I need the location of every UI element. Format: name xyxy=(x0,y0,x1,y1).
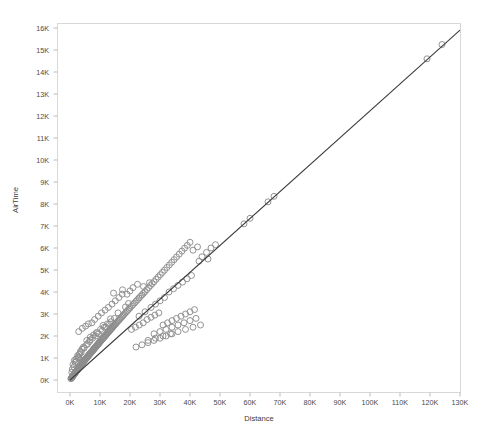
x-tick-label: 80K xyxy=(304,398,317,407)
y-tick-label: 1K xyxy=(40,354,49,363)
data-point xyxy=(115,310,121,316)
data-point xyxy=(95,313,101,319)
y-tick-label: 0K xyxy=(40,376,49,385)
y-tick-label: 8K xyxy=(40,200,49,209)
data-point xyxy=(169,324,175,330)
chart-canvas: 0K1K2K3K4K5K6K7K8K9K10K11K12K13K14K15K16… xyxy=(0,0,478,439)
y-tick-label: 13K xyxy=(36,90,49,99)
trend-line xyxy=(70,30,460,380)
x-tick-label: 90K xyxy=(334,398,347,407)
data-point xyxy=(187,318,193,324)
y-tick-label: 11K xyxy=(37,134,49,143)
scatter-plot-chart: 0K1K2K3K4K5K6K7K8K9K10K11K12K13K14K15K16… xyxy=(0,0,478,439)
x-tick-label: 100K xyxy=(362,398,379,407)
x-tick-label: 50K xyxy=(214,398,227,407)
y-tick-label: 7K xyxy=(40,222,49,231)
data-point xyxy=(135,281,141,287)
y-tick-label: 3K xyxy=(40,310,49,319)
data-point xyxy=(133,344,139,350)
data-point xyxy=(157,329,163,335)
x-axis-title: Distance xyxy=(244,414,274,423)
y-tick-label: 6K xyxy=(40,244,49,253)
y-tick-label: 12K xyxy=(36,112,49,121)
y-tick-label: 10K xyxy=(36,156,49,165)
x-axis-ticks: 0K10K20K30K40K50K60K70K80K90K100K110K120… xyxy=(66,393,469,408)
data-point xyxy=(112,298,118,304)
data-point xyxy=(181,320,187,326)
x-tick-label: 0K xyxy=(66,398,75,407)
x-tick-label: 70K xyxy=(274,398,287,407)
y-tick-label: 14K xyxy=(36,68,49,77)
y-tick-label: 9K xyxy=(40,178,49,187)
y-tick-label: 2K xyxy=(40,332,49,341)
regression-line xyxy=(70,30,460,380)
data-point xyxy=(139,342,145,348)
data-point xyxy=(198,322,204,328)
x-tick-label: 120K xyxy=(422,398,439,407)
data-point xyxy=(109,301,115,307)
data-point xyxy=(175,322,181,328)
x-tick-label: 40K xyxy=(184,398,197,407)
y-tick-label: 4K xyxy=(40,288,49,297)
data-point xyxy=(195,244,201,250)
data-point xyxy=(196,258,202,264)
data-point xyxy=(190,324,196,330)
x-tick-label: 20K xyxy=(124,398,137,407)
data-point xyxy=(175,329,181,335)
data-point xyxy=(116,295,122,301)
y-tick-label: 5K xyxy=(40,266,49,275)
y-axis-title: AirTime xyxy=(11,187,20,213)
data-point xyxy=(111,290,117,296)
x-tick-label: 30K xyxy=(154,398,167,407)
data-point xyxy=(142,309,148,315)
x-tick-label: 110K xyxy=(392,398,408,407)
x-tick-label: 130K xyxy=(452,398,469,407)
data-point xyxy=(193,315,199,321)
y-axis-ticks: 0K1K2K3K4K5K6K7K8K9K10K11K12K13K14K15K16… xyxy=(36,24,57,385)
data-point xyxy=(213,242,219,248)
data-point xyxy=(424,56,430,62)
x-tick-label: 60K xyxy=(244,398,257,407)
y-tick-label: 16K xyxy=(36,24,49,33)
data-point xyxy=(76,329,82,335)
data-point xyxy=(183,326,189,332)
x-tick-label: 10K xyxy=(94,398,107,407)
y-tick-label: 15K xyxy=(36,46,49,55)
